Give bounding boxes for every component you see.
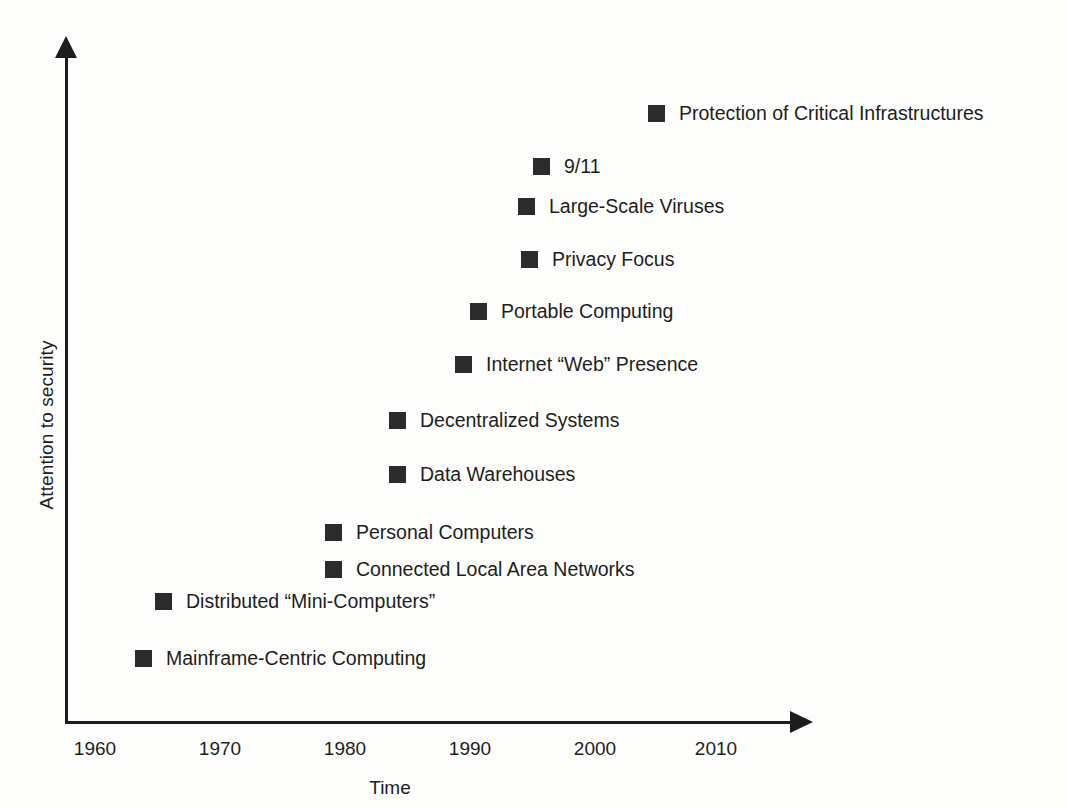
data-point-label: Large-Scale Viruses bbox=[549, 197, 724, 217]
data-point-marker-icon bbox=[533, 158, 550, 175]
x-tick-label-1990: 1990 bbox=[430, 738, 510, 760]
data-point: 9/11 bbox=[533, 157, 601, 177]
data-point-marker-icon bbox=[155, 593, 172, 610]
y-axis-arrow-icon bbox=[55, 36, 77, 58]
data-point: Personal Computers bbox=[325, 523, 534, 543]
data-point: Connected Local Area Networks bbox=[325, 560, 635, 580]
x-tick-label-1960: 1960 bbox=[55, 738, 135, 760]
x-tick-label-2010: 2010 bbox=[676, 738, 756, 760]
data-point-label: Mainframe-Centric Computing bbox=[166, 649, 426, 669]
data-point-label: Personal Computers bbox=[356, 523, 534, 543]
data-point-label: Privacy Focus bbox=[552, 250, 674, 270]
data-point-label: Portable Computing bbox=[501, 302, 673, 322]
data-point-marker-icon bbox=[518, 198, 535, 215]
data-point: Portable Computing bbox=[470, 302, 673, 322]
data-point-marker-icon bbox=[521, 251, 538, 268]
data-point-label: Data Warehouses bbox=[420, 465, 575, 485]
data-point: Privacy Focus bbox=[521, 250, 674, 270]
data-point-marker-icon bbox=[135, 650, 152, 667]
x-axis-title: Time bbox=[330, 777, 450, 799]
data-point-marker-icon bbox=[325, 561, 342, 578]
timeline-scatter-chart: Attention to security Time 1960197019801… bbox=[0, 0, 1066, 809]
data-point-label: Connected Local Area Networks bbox=[356, 560, 635, 580]
data-point-label: Decentralized Systems bbox=[420, 411, 619, 431]
data-point: Data Warehouses bbox=[389, 465, 575, 485]
data-point-label: Internet “Web” Presence bbox=[486, 355, 698, 375]
data-point-marker-icon bbox=[470, 303, 487, 320]
data-point: Protection of Critical Infrastructures bbox=[648, 104, 984, 124]
data-point-marker-icon bbox=[389, 412, 406, 429]
data-point-marker-icon bbox=[389, 466, 406, 483]
data-point: Large-Scale Viruses bbox=[518, 197, 724, 217]
x-axis-line bbox=[65, 721, 805, 724]
data-point-marker-icon bbox=[455, 356, 472, 373]
x-tick-label-2000: 2000 bbox=[555, 738, 635, 760]
data-point: Internet “Web” Presence bbox=[455, 355, 698, 375]
data-point-marker-icon bbox=[648, 105, 665, 122]
x-axis-arrow-icon bbox=[790, 711, 813, 733]
x-tick-label-1980: 1980 bbox=[305, 738, 385, 760]
data-point: Decentralized Systems bbox=[389, 411, 619, 431]
data-point: Mainframe-Centric Computing bbox=[135, 649, 426, 669]
data-point-label: Distributed “Mini-Computers” bbox=[186, 592, 435, 612]
y-axis-title: Attention to security bbox=[36, 315, 58, 535]
data-point: Distributed “Mini-Computers” bbox=[155, 592, 435, 612]
data-point-marker-icon bbox=[325, 524, 342, 541]
data-point-label: Protection of Critical Infrastructures bbox=[679, 104, 984, 124]
x-tick-label-1970: 1970 bbox=[180, 738, 260, 760]
data-point-label: 9/11 bbox=[564, 157, 601, 177]
y-axis-line bbox=[65, 52, 68, 724]
